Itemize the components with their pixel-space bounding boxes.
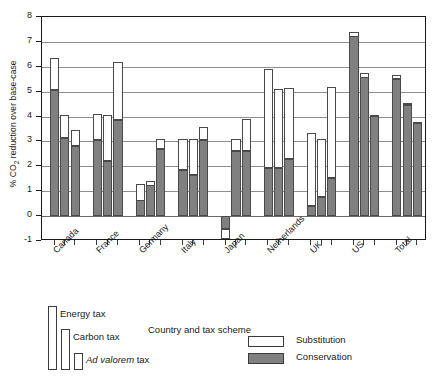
x-tick-uk-2 bbox=[331, 240, 332, 245]
bar-substitution-germany-2 bbox=[156, 139, 165, 149]
bar-conservation-netherlands-0 bbox=[264, 168, 273, 217]
bar-substitution-netherlands-2 bbox=[284, 88, 293, 159]
bar-conservation-france-0 bbox=[93, 140, 102, 216]
x-tick-germany-2 bbox=[160, 240, 161, 245]
bar-substitution-canada-1 bbox=[60, 115, 69, 137]
bar-conservation-netherlands-1 bbox=[274, 168, 283, 217]
bar-conservation-us-1 bbox=[360, 73, 369, 216]
bar-conservation-uk-0 bbox=[307, 206, 316, 216]
legend-label-ad-valorem-italic: Ad valorem bbox=[86, 354, 134, 365]
bar-substitution-uk-2 bbox=[327, 87, 336, 178]
bar-substitution-france-1 bbox=[103, 115, 112, 161]
y-tick-label-6: 6 bbox=[6, 60, 32, 70]
bar-substitution-netherlands-0 bbox=[264, 69, 273, 167]
bar-conservation-canada-1 bbox=[60, 138, 69, 216]
plot-area bbox=[41, 16, 426, 240]
x-tick-us-2 bbox=[374, 240, 375, 245]
bar-substitution-germany-1 bbox=[146, 181, 155, 186]
bar-series-container bbox=[42, 17, 425, 239]
bar-substitution-italy-1 bbox=[189, 139, 198, 175]
bar-substitution-japan-1 bbox=[231, 139, 240, 151]
bar-substitution-total-1 bbox=[403, 103, 412, 105]
bar-conservation-italy-1 bbox=[189, 175, 198, 216]
bar-conservation-germany-1 bbox=[146, 181, 155, 216]
y-tick-label-3: 3 bbox=[6, 134, 32, 144]
y-tick-label-8: 8 bbox=[6, 10, 32, 20]
bar-substitution-france-2 bbox=[113, 62, 122, 120]
bar-conservation-italy-0 bbox=[178, 170, 187, 216]
legend-label-energy-tax: Energy tax bbox=[60, 308, 105, 319]
x-tick-japan-2 bbox=[245, 240, 246, 245]
bar-conservation-uk-1 bbox=[317, 197, 326, 216]
bar-substitution-canada-0 bbox=[50, 58, 59, 90]
legend-bar-energy-tax bbox=[48, 306, 57, 370]
tax-scheme-legend: Energy tax Carbon tax Ad valorem tax bbox=[48, 305, 238, 375]
bar-conservation-italy-2 bbox=[199, 140, 208, 216]
bar-substitution-uk-0 bbox=[307, 133, 316, 206]
legend-label-carbon-tax: Carbon tax bbox=[73, 331, 119, 342]
y-tick-label-5: 5 bbox=[6, 85, 32, 95]
bar-conservation-japan-1 bbox=[231, 151, 240, 216]
bar-conservation-netherlands-2 bbox=[284, 159, 293, 216]
bar-conservation-germany-2 bbox=[156, 149, 165, 216]
bar-substitution-us-1 bbox=[360, 73, 369, 78]
bar-substitution-japan-2 bbox=[242, 119, 251, 151]
bar-conservation-total-2 bbox=[413, 123, 422, 216]
bar-substitution-netherlands-1 bbox=[274, 89, 283, 167]
y-tick-label-7: 7 bbox=[6, 35, 32, 45]
x-tick-france-2 bbox=[117, 240, 118, 245]
y-tick-label-1: 1 bbox=[6, 184, 32, 194]
bar-conservation-canada-2 bbox=[71, 146, 80, 216]
legend-bar-ad-valorem-tax bbox=[74, 353, 83, 370]
y-axis-title: % CO2 reduction over base-case bbox=[8, 14, 20, 234]
bar-conservation-canada-0 bbox=[50, 90, 59, 216]
bar-conservation-france-2 bbox=[113, 120, 122, 216]
bar-conservation-france-1 bbox=[103, 161, 112, 216]
legend-label-ad-valorem-rest: tax bbox=[134, 354, 149, 365]
bar-conservation-japan-0 bbox=[221, 216, 230, 228]
bar-substitution-japan-0 bbox=[221, 229, 230, 239]
y-tick-mark--1 bbox=[36, 240, 41, 241]
bar-conservation-us-2 bbox=[370, 115, 379, 216]
y-tick-label-4: 4 bbox=[6, 110, 32, 120]
y-tick-label--1: -1 bbox=[6, 234, 32, 244]
x-tick-netherlands-2 bbox=[288, 240, 289, 245]
legend-swatch-substitution bbox=[248, 336, 284, 347]
bar-conservation-uk-2 bbox=[327, 178, 336, 217]
bar-substitution-total-0 bbox=[392, 75, 401, 79]
chart-figure: % CO2 reduction over base-case -10123456… bbox=[0, 0, 442, 380]
bar-conservation-total-1 bbox=[403, 105, 412, 216]
legend-label-conservation: Conservation bbox=[296, 351, 352, 362]
bar-substitution-italy-0 bbox=[178, 139, 187, 170]
bar-substitution-canada-2 bbox=[71, 130, 80, 146]
bar-substitution-italy-2 bbox=[199, 127, 208, 141]
bar-substitution-us-0 bbox=[349, 32, 358, 37]
bar-conservation-total-0 bbox=[392, 79, 401, 216]
x-tick-total-2 bbox=[416, 240, 417, 245]
bar-substitution-total-2 bbox=[413, 122, 422, 124]
legend-bar-carbon-tax bbox=[61, 329, 70, 370]
bar-substitution-france-0 bbox=[93, 114, 102, 140]
bar-conservation-japan-2 bbox=[242, 151, 251, 216]
y-tick-label-0: 0 bbox=[6, 209, 32, 219]
x-tick-canada-2 bbox=[74, 240, 75, 245]
x-tick-italy-2 bbox=[203, 240, 204, 245]
y-tick-label-2: 2 bbox=[6, 159, 32, 169]
bar-substitution-us-2 bbox=[370, 115, 379, 117]
bar-conservation-us-0 bbox=[349, 32, 358, 216]
legend-swatch-conservation bbox=[248, 353, 284, 364]
bar-substitution-uk-1 bbox=[317, 139, 326, 197]
bar-substitution-germany-0 bbox=[136, 184, 145, 201]
legend-label-ad-valorem-tax: Ad valorem tax bbox=[86, 354, 149, 365]
legend-label-substitution: Substitution bbox=[296, 334, 346, 345]
